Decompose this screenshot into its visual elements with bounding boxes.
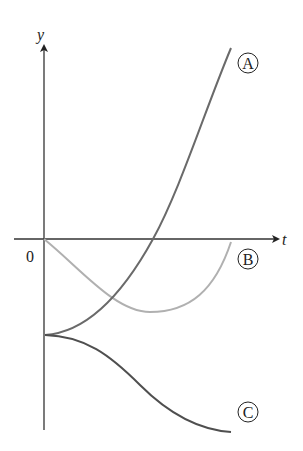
curve-b [44,239,231,312]
svg-text:C: C [243,404,254,421]
graph-diagram: y t 0 A B C [0,0,303,451]
origin-label: 0 [26,248,34,265]
label-c: C [238,402,258,422]
svg-text:B: B [243,251,254,268]
label-a: A [238,53,258,73]
svg-text:A: A [242,55,254,72]
curve-c [45,335,231,432]
label-b: B [238,249,258,269]
y-axis-label: y [35,26,45,44]
t-axis-label: t [282,231,287,248]
